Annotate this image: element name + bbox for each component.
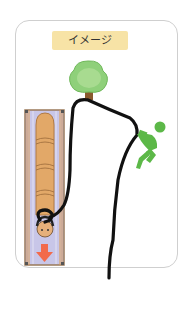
illustration [0,0,193,310]
pipe [36,113,54,215]
tree-icon [70,61,108,100]
person-figure-icon [136,122,166,170]
